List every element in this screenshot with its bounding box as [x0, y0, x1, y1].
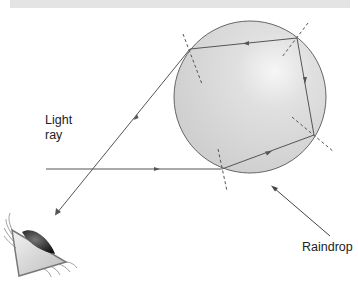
light-ray-label-line2: ray: [45, 128, 72, 143]
raindrop-circle: [174, 21, 326, 173]
arrow-icon: [271, 186, 330, 237]
eye-icon: [4, 213, 77, 277]
raindrop-label: Raindrop: [302, 240, 353, 255]
light-ray-label: Light ray: [45, 113, 72, 143]
incoming-light-ray: [46, 167, 222, 171]
outgoing-light-ray: [55, 49, 190, 216]
raindrop-diagram: [0, 0, 358, 300]
light-ray-label-line1: Light: [45, 113, 72, 128]
